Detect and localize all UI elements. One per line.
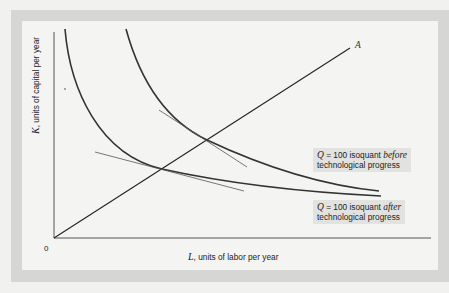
after-isoquant-label: Q = 100 isoquant after technological pro… xyxy=(313,200,405,224)
after-label-text: = 100 isoquant xyxy=(324,202,383,212)
y-axis-var: K xyxy=(30,127,41,134)
before-label-emphasis: before xyxy=(383,150,407,160)
before-label-var: Q xyxy=(317,150,324,160)
ray-a xyxy=(54,48,350,238)
y-axis-text: , units of capital per year xyxy=(31,37,41,127)
x-axis-text: , units of labor per year xyxy=(194,252,279,262)
tangent-after xyxy=(95,152,244,191)
x-axis-label: L, units of labor per year xyxy=(188,251,278,262)
ray-a-label: A xyxy=(355,40,361,50)
before-isoquant-label: Q = 100 isoquant before technological pr… xyxy=(313,148,411,172)
after-label-line2: technological progress xyxy=(317,212,401,222)
tangent-before xyxy=(159,110,247,167)
isoquant-chart xyxy=(0,0,449,293)
stray-dot xyxy=(64,88,66,90)
before-label-text: = 100 isoquant xyxy=(324,150,383,160)
origin-label: 0 xyxy=(44,244,48,253)
after-label-emphasis: after xyxy=(383,202,401,212)
y-axis-label: K, units of capital per year xyxy=(30,37,41,134)
after-label-var: Q xyxy=(317,202,324,212)
before-label-line2: technological progress xyxy=(317,160,407,170)
